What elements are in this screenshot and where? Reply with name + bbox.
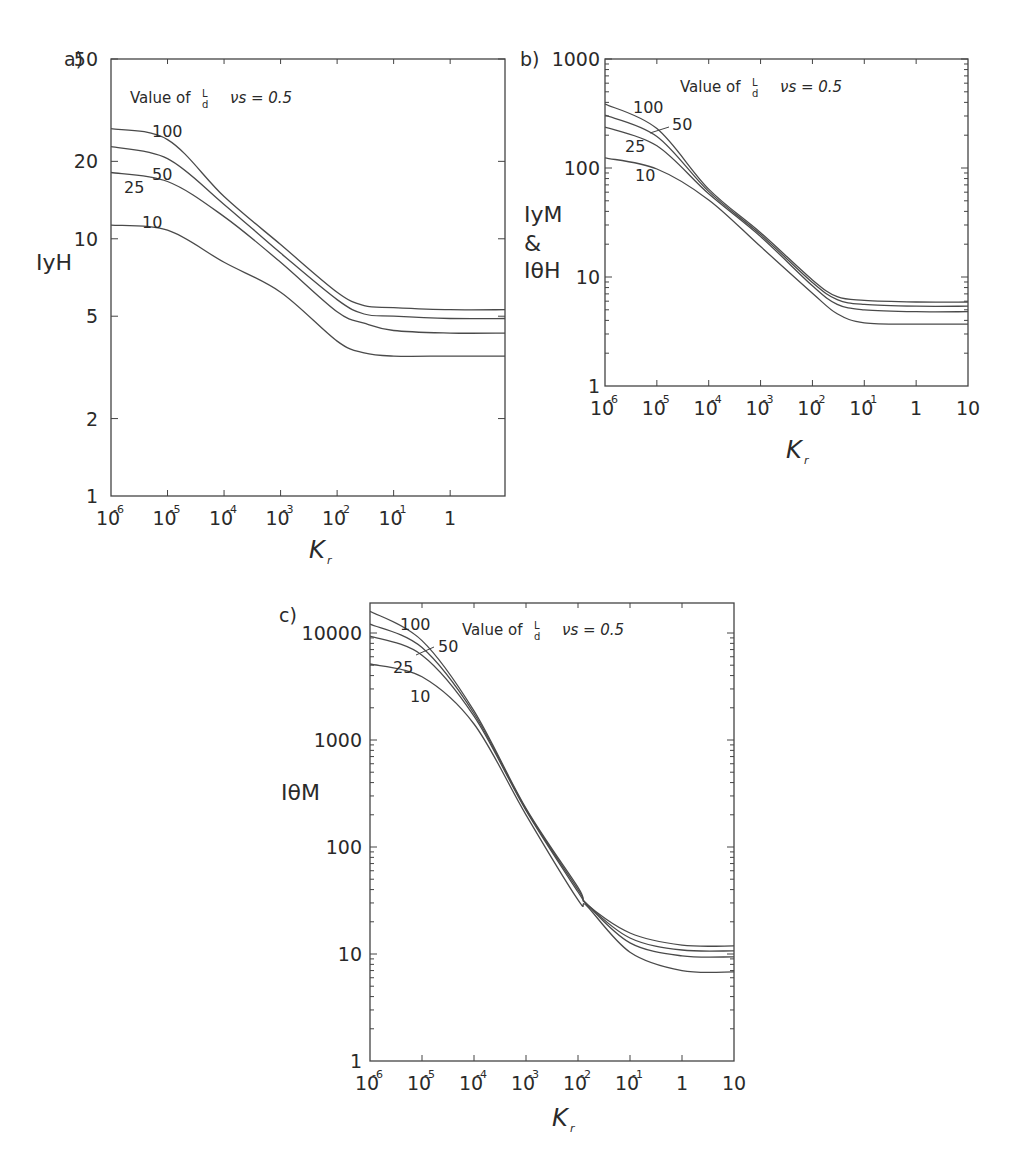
x-axis: 10-610-510-410-310-210-11 [96, 59, 456, 529]
series-group [370, 611, 734, 972]
y-tick-label: 50 [74, 48, 98, 70]
series-label-100: 100 [400, 615, 431, 634]
series-line-25 [605, 127, 968, 312]
x-tick-exponent: -4 [711, 393, 722, 406]
y-axis: 125102050 [74, 48, 505, 507]
y-axis-title: IyM [524, 202, 563, 227]
series-line-10 [605, 158, 968, 324]
series-line-100 [605, 104, 968, 302]
legend-fraction-denominator: d [534, 631, 540, 642]
legend-param: νs = 0.5 [230, 89, 292, 107]
x-tick-exponent: -6 [113, 503, 124, 516]
series-line-100 [111, 129, 507, 310]
y-tick-label: 10 [338, 943, 362, 965]
series-label-50: 50 [438, 637, 458, 656]
y-tick-label: 1 [588, 375, 600, 397]
x-tick-label: 10 [722, 1072, 746, 1094]
x-tick-exponent: -3 [283, 503, 294, 516]
y-tick-label: 1 [86, 485, 98, 507]
x-axis-title: K [552, 1104, 570, 1132]
y-axis: 110100100010000 [302, 622, 734, 1072]
x-tick-exponent: -4 [226, 503, 237, 516]
y-axis-title: IyH [36, 250, 72, 275]
legend-fraction-numerator: L [534, 620, 540, 631]
x-tick-exponent: -6 [607, 393, 618, 406]
y-axis: 1101001000 [552, 48, 968, 397]
x-tick-exponent: -2 [580, 1068, 591, 1081]
x-tick-exponent: -5 [659, 393, 670, 406]
legend-param: νs = 0.5 [562, 621, 624, 639]
legend-fraction-numerator: L [202, 88, 208, 99]
series-line-50 [605, 115, 968, 306]
y-tick-label: 10 [576, 266, 600, 288]
y-tick-label: 10000 [302, 622, 362, 644]
series-group [605, 104, 968, 324]
legend-text: Value of [462, 621, 523, 639]
x-tick-label: 10 [956, 397, 980, 419]
series-label-10: 10 [142, 213, 162, 232]
x-tick-exponent: -1 [632, 1068, 643, 1081]
chart-panel-a: a)10-610-510-410-310-210-11Kr125102050Iy… [36, 48, 507, 567]
y-tick-label: 20 [74, 150, 98, 172]
x-axis-title-subscript: r [327, 554, 333, 567]
y-tick-label: 1 [350, 1050, 362, 1072]
series-line-10 [370, 664, 734, 972]
y-tick-label: 5 [86, 305, 98, 327]
plot-frame [370, 603, 734, 1061]
legend-text: Value of [680, 78, 741, 96]
x-axis-title: K [786, 436, 804, 464]
series-line-100 [370, 611, 734, 946]
y-axis-title: IθM [281, 780, 320, 805]
series-label-10: 10 [635, 166, 655, 185]
x-tick-exponent: -2 [814, 393, 825, 406]
x-tick-exponent: -6 [372, 1068, 383, 1081]
panel-label: b) [520, 48, 539, 70]
figure-canvas: a)10-610-510-410-310-210-11Kr125102050Iy… [0, 0, 1022, 1166]
x-tick-exponent: -5 [424, 1068, 435, 1081]
series-label-25: 25 [625, 137, 645, 156]
x-tick-label: 1 [444, 507, 456, 529]
x-tick-exponent: -2 [339, 503, 350, 516]
legend-fraction-denominator: d [202, 99, 208, 110]
x-tick-exponent: -5 [170, 503, 181, 516]
y-tick-label: 100 [326, 836, 362, 858]
panel-label: c) [279, 604, 297, 626]
y-tick-label: 1000 [314, 729, 362, 751]
x-tick-label: 1 [910, 397, 922, 419]
series-label-25: 25 [393, 658, 413, 677]
series-label-25: 25 [124, 178, 144, 197]
chart-panel-c: c)10-610-510-410-310-210-1110Kr110100100… [279, 603, 746, 1135]
legend-param: νs = 0.5 [780, 78, 842, 96]
series-line-10 [111, 225, 507, 356]
legend: Value ofLdνs = 0.5 [462, 620, 624, 642]
series-line-25 [370, 636, 734, 957]
y-tick-label: 2 [86, 408, 98, 430]
legend-fraction-denominator: d [752, 88, 758, 99]
y-tick-label: 1000 [552, 48, 600, 70]
legend: Value ofLdνs = 0.5 [130, 88, 292, 110]
series-label-100: 100 [633, 98, 664, 117]
leader-line [650, 127, 669, 133]
y-axis-title: IθH [524, 258, 561, 283]
x-tick-exponent: -3 [528, 1068, 539, 1081]
series-label-50: 50 [152, 165, 172, 184]
x-tick-exponent: -4 [476, 1068, 487, 1081]
series-label-10: 10 [410, 687, 430, 706]
y-tick-label: 10 [74, 228, 98, 250]
legend: Value ofLdνs = 0.5 [680, 77, 842, 99]
x-tick-exponent: -3 [763, 393, 774, 406]
x-axis-title: K [309, 536, 327, 564]
x-tick-exponent: -1 [396, 503, 407, 516]
series-label-100: 100 [152, 122, 183, 141]
y-tick-label: 100 [564, 157, 600, 179]
series-label-50: 50 [672, 115, 692, 134]
x-tick-exponent: -1 [866, 393, 877, 406]
series-group [111, 129, 507, 357]
series-line-50 [370, 624, 734, 951]
legend-text: Value of [130, 89, 191, 107]
chart-panel-b: b)10-610-510-410-310-210-1110Kr110100100… [520, 48, 980, 467]
x-axis-title-subscript: r [804, 454, 810, 467]
x-tick-label: 1 [676, 1072, 688, 1094]
legend-fraction-numerator: L [752, 77, 758, 88]
y-axis-title: & [524, 231, 541, 256]
